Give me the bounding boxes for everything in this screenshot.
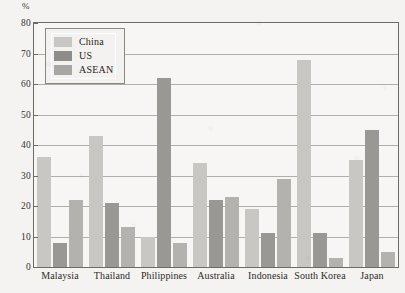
y-tick-label: 70 [3, 49, 31, 59]
y-tick-label: 60 [3, 79, 31, 89]
x-label-japan: Japan [360, 270, 383, 281]
y-tick-mark [33, 267, 38, 268]
x-label-south-korea: South Korea [294, 270, 345, 281]
y-tick-label: 0 [3, 262, 31, 272]
y-axis: 01020304050607080 [0, 0, 31, 293]
bar-chart: % 01020304050607080 MalaysiaThailandPhil… [0, 0, 405, 293]
bar-china-philippines [141, 237, 155, 268]
y-tick-mark [33, 206, 38, 207]
bar-china-south-korea [297, 60, 311, 267]
y-tick-label: 80 [3, 18, 31, 28]
x-label-thailand: Thailand [94, 270, 130, 281]
bar-us-japan [365, 130, 379, 267]
x-label-malaysia: Malaysia [41, 270, 78, 281]
x-label-indonesia: Indonesia [248, 270, 288, 281]
bar-asean-japan [381, 252, 395, 267]
bar-us-south-korea [313, 233, 327, 267]
legend-swatch-china [54, 37, 72, 47]
bar-group [242, 23, 294, 267]
legend-item-us: US [54, 49, 113, 63]
bar-asean-indonesia [277, 179, 291, 267]
bar-china-malaysia [37, 157, 51, 267]
y-tick-label: 10 [3, 232, 31, 242]
bar-group [346, 23, 398, 267]
legend-label: China [79, 37, 104, 47]
bar-asean-australia [225, 197, 239, 267]
y-tick-label: 20 [3, 201, 31, 211]
y-tick-mark [33, 176, 38, 177]
bar-asean-philippines [173, 243, 187, 267]
bar-group [138, 23, 190, 267]
y-tick-label: 30 [3, 171, 31, 181]
bar-group [294, 23, 346, 267]
bar-china-japan [349, 160, 363, 267]
x-label-australia: Australia [197, 270, 235, 281]
legend-label: ASEAN [79, 65, 113, 75]
y-tick-mark [33, 237, 38, 238]
y-tick-mark [33, 145, 38, 146]
x-label-philippines: Philippines [141, 270, 187, 281]
legend-item-asean: ASEAN [54, 63, 113, 77]
bar-asean-south-korea [329, 258, 343, 267]
bar-group [190, 23, 242, 267]
bar-china-indonesia [245, 209, 259, 267]
legend-inner: ChinaUSASEAN [51, 33, 116, 79]
bar-china-australia [193, 163, 207, 267]
bar-us-malaysia [53, 243, 67, 267]
legend-label: US [79, 51, 92, 61]
y-tick-mark [33, 23, 38, 24]
bar-asean-thailand [121, 227, 135, 267]
bar-us-australia [209, 200, 223, 267]
x-axis-category-labels: MalaysiaThailandPhilippinesAustraliaIndo… [33, 270, 399, 290]
bar-us-thailand [105, 203, 119, 267]
y-tick-mark [33, 84, 38, 85]
y-tick-mark [33, 115, 38, 116]
legend-item-china: China [54, 35, 113, 49]
legend: ChinaUSASEAN [45, 28, 125, 84]
bar-us-philippines [157, 78, 171, 267]
y-tick-mark [33, 54, 38, 55]
bar-china-thailand [89, 136, 103, 267]
bar-asean-malaysia [69, 200, 83, 267]
y-tick-label: 50 [3, 110, 31, 120]
legend-swatch-asean [54, 65, 72, 75]
bar-us-indonesia [261, 233, 275, 267]
legend-swatch-us [54, 51, 72, 61]
y-tick-label: 40 [3, 140, 31, 150]
